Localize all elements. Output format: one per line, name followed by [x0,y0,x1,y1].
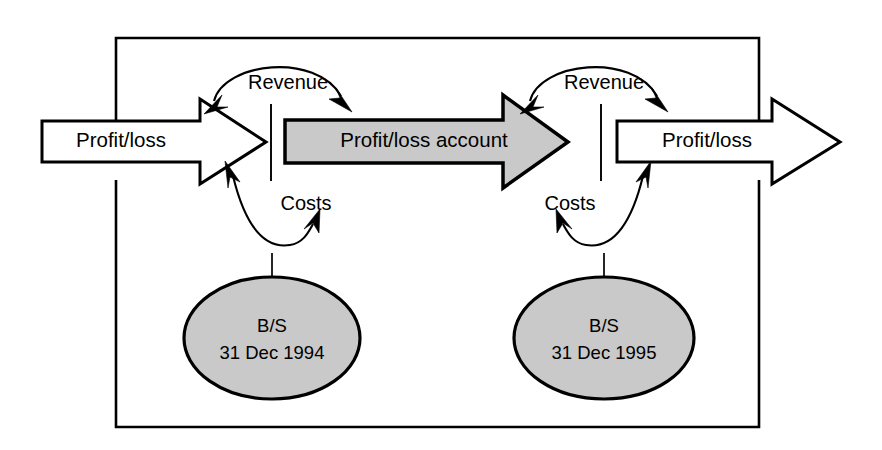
connector-revenue-left-arrowhead-end [329,88,352,112]
label-balance-sheet-1994-line2: 31 Dec 1994 [220,342,325,363]
label-profit-loss-account: Profit/loss account [340,128,508,151]
label-profit-loss-in: Profit/loss [76,128,166,151]
node-balance-sheet-1995 [514,277,694,399]
diagram-canvas: Profit/loss Profit/loss account Profit/l… [0,0,882,450]
label-balance-sheet-1995-line2: 31 Dec 1995 [552,342,657,363]
label-profit-loss-out: Profit/loss [662,128,752,151]
connector-costs-right-arrowhead-top [636,161,651,188]
label-balance-sheet-1994-line1: B/S [257,315,287,336]
label-revenue-right: Revenue [564,71,644,93]
connector-revenue-right-arrowhead-end [645,88,668,112]
label-costs-left: Costs [280,192,331,214]
label-costs-right: Costs [544,192,595,214]
label-revenue-left: Revenue [248,71,328,93]
profit-loss-diagram: Profit/loss Profit/loss account Profit/l… [0,0,882,450]
node-balance-sheet-1994 [184,277,360,399]
label-balance-sheet-1995-line1: B/S [589,315,619,336]
